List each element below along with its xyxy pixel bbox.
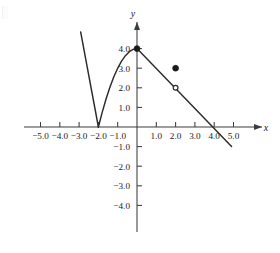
y-tick-label-3: 1.0	[119, 103, 131, 113]
marker-closed-point-origin-four	[134, 46, 140, 52]
coordinate-plane: −5.0−4.0−3.0−2.0−1.01.02.03.04.05.04.03.…	[0, 0, 280, 253]
x-tick-label-6: 2.0	[170, 131, 182, 141]
x-tick-label-9: 5.0	[228, 131, 240, 141]
y-axis-label: y	[130, 8, 136, 19]
y-tick-label-1: 3.0	[119, 64, 131, 74]
x-tick-label-5: 1.0	[151, 131, 163, 141]
x-tick-label-0: −5.0	[32, 131, 49, 141]
y-tick-label-5: −2.0	[113, 162, 130, 172]
curve-left-branch	[81, 32, 99, 127]
y-tick-label-4: −1.0	[113, 142, 130, 152]
plotted-curves-group	[81, 32, 232, 147]
y-axis-arrow-icon	[134, 22, 140, 30]
x-tick-label-4: −1.0	[109, 131, 126, 141]
x-axis-arrow-icon	[254, 124, 262, 130]
x-tick-label-3: −2.0	[90, 131, 107, 141]
y-tick-label-2: 2.0	[119, 83, 131, 93]
y-tick-label-6: −3.0	[113, 181, 130, 191]
x-tick-label-2: −3.0	[71, 131, 88, 141]
x-tick-label-1: −4.0	[51, 131, 68, 141]
graph-figure: −5.0−4.0−3.0−2.0−1.01.02.03.04.05.04.03.…	[0, 0, 280, 253]
x-tick-label-7: 3.0	[189, 131, 201, 141]
y-tick-label-7: −4.0	[113, 201, 130, 211]
marker-closed-point-two-three	[173, 65, 179, 71]
marker-open-point-two-two	[173, 85, 178, 90]
x-axis-label: x	[263, 122, 269, 133]
